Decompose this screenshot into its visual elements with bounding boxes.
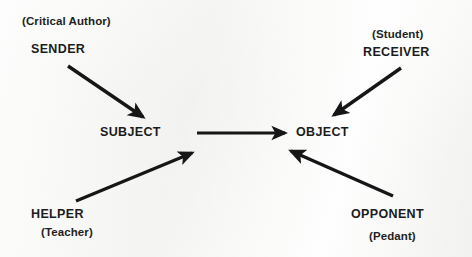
node-helper: HELPER [31, 208, 84, 221]
node-object: OBJECT [296, 126, 349, 139]
node-sender: SENDER [31, 43, 85, 56]
node-receiver: RECEIVER [363, 46, 430, 59]
arrow-receiver-to-object [334, 68, 401, 115]
node-subject: SUBJECT [100, 126, 161, 139]
arrow-opponent-to-object [291, 151, 393, 196]
opponent-gloss: (Pedant) [369, 230, 416, 242]
arrow-sender-to-subject [68, 66, 143, 117]
diagram-canvas: (Critical Author) SENDER (Student) RECEI… [0, 0, 472, 257]
node-opponent: OPPONENT [351, 208, 424, 221]
sender-gloss: (Critical Author) [22, 15, 111, 27]
receiver-gloss: (Student) [372, 28, 423, 40]
arrow-helper-to-subject [76, 153, 192, 201]
helper-gloss: (Teacher) [41, 226, 93, 238]
